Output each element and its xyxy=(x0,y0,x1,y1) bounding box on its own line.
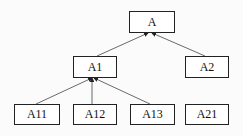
node-a1: A1 xyxy=(73,56,117,78)
edge-a1-a xyxy=(97,33,148,56)
edge-a11-a1 xyxy=(36,78,92,104)
tree-diagram: A A1 A2 A11 A12 A13 A21 xyxy=(0,0,243,136)
node-a11: A11 xyxy=(14,104,60,125)
node-a13: A13 xyxy=(130,104,175,125)
node-a12: A12 xyxy=(73,104,117,125)
edge-a2-a xyxy=(152,33,205,56)
node-a21: A21 xyxy=(185,104,229,125)
node-a2: A2 xyxy=(185,56,229,78)
node-label: A21 xyxy=(197,107,218,122)
node-a: A xyxy=(129,11,175,33)
node-label: A11 xyxy=(27,107,47,122)
edge-a13-a1 xyxy=(94,78,150,104)
node-label: A12 xyxy=(85,107,106,122)
node-label: A1 xyxy=(88,60,103,75)
node-label: A13 xyxy=(142,107,163,122)
node-label: A2 xyxy=(200,60,215,75)
node-label: A xyxy=(148,15,157,30)
